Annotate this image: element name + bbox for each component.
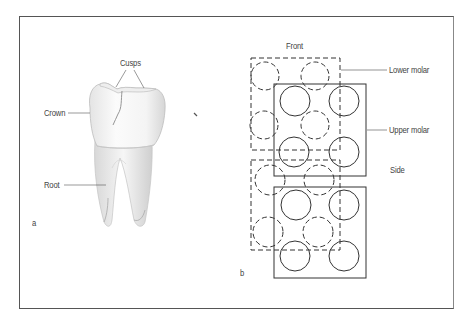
upper-molar-side: [274, 187, 366, 278]
panel-b-callouts: [341, 70, 387, 130]
panel-b-letter: b: [240, 268, 244, 278]
label-cusps: Cusps: [120, 58, 141, 68]
label-front: Front: [286, 41, 303, 51]
label-side: Side: [390, 165, 405, 175]
panel-a-letter: a: [32, 218, 36, 228]
occlusion-diagram: [250, 58, 366, 278]
label-upper-molar: Upper molar: [389, 125, 429, 135]
label-lower-molar: Lower molar: [389, 65, 429, 75]
stray-mark: [194, 113, 197, 116]
molar-tooth-illustration: [89, 83, 165, 226]
upper-molar-front: [274, 84, 366, 176]
lower-molar-side: [251, 160, 340, 250]
tooth-crown: [89, 83, 165, 148]
label-crown: Crown: [44, 108, 65, 118]
label-root: Root: [44, 180, 59, 190]
lower-molar-front: [250, 58, 340, 150]
